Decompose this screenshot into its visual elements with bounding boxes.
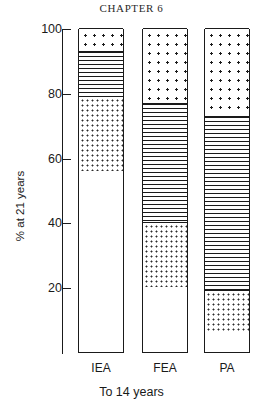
bar-segment-horiz-lines: [143, 103, 187, 223]
y-axis-tick: [62, 223, 71, 224]
y-axis-line: [62, 29, 63, 354]
y-axis-tick-label: 20: [48, 281, 62, 295]
y-axis-title: % at 21 years: [14, 151, 26, 261]
y-axis-tick-label: 100: [41, 22, 62, 36]
bar-fea[interactable]: [142, 29, 188, 353]
y-axis-tick: [62, 159, 71, 160]
bar-label-fea: FEA: [142, 361, 188, 375]
y-axis-tick-label: 40: [48, 216, 62, 230]
bar-segment-fine-dots: [205, 290, 249, 332]
bar-segment-fine-dots: [143, 222, 187, 287]
y-axis-tick-label: 80: [48, 87, 62, 101]
bar-segment-horiz-lines: [205, 116, 249, 291]
y-axis-tick: [62, 288, 71, 289]
bar-segment-coarse-dots: [205, 28, 249, 115]
bar-label-pa: PA: [204, 361, 250, 375]
bar-label-iea: IEA: [78, 361, 124, 375]
bar-segment-blank: [79, 171, 123, 352]
figure-page: CHAPTER 6 20406080100 % at 21 years IEAF…: [0, 0, 263, 413]
y-axis-tick-label: 60: [48, 152, 62, 166]
bar-segment-coarse-dots: [143, 28, 187, 103]
bar-pa[interactable]: [204, 29, 250, 353]
bar-segment-horiz-lines: [79, 51, 123, 96]
y-axis-tick: [62, 29, 71, 30]
y-axis-tick: [62, 94, 71, 95]
bar-segment-blank: [143, 287, 187, 352]
bar-segment-fine-dots: [79, 96, 123, 171]
bar-iea[interactable]: [78, 29, 124, 353]
bar-segment-coarse-dots: [79, 28, 123, 51]
x-axis-title: To 14 years: [0, 385, 263, 399]
chart-plot-area: 20406080100 % at 21 years IEAFEAPA To 14…: [0, 0, 263, 413]
bar-segment-blank: [205, 333, 249, 352]
